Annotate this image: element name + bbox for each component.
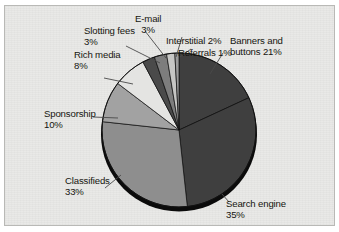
label-interstitial: Interstitial 2%	[166, 36, 221, 47]
label-interstitial-name: Interstitial	[166, 35, 205, 46]
label-banners-and-buttons: Banners and buttons 21%	[230, 36, 283, 57]
label-classifieds: Classifieds 33%	[65, 176, 110, 197]
label-referrals: Referrals 1%	[178, 48, 232, 59]
pie-slices	[102, 53, 256, 207]
label-search-engine-name: Search engine	[226, 199, 286, 210]
chart-panel: E-mail 3% Interstitial 2% Referrals 1% B…	[4, 5, 335, 226]
label-interstitial-value: 2%	[208, 35, 222, 46]
label-slotting-fees: Slotting fees 3%	[84, 26, 135, 47]
label-email-name: E-mail	[135, 14, 161, 25]
label-email-value: 3%	[135, 25, 161, 36]
label-search-engine: Search engine 35%	[226, 199, 286, 220]
label-sponsorship: Sponsorship 10%	[44, 109, 96, 130]
label-rich-media-value: 8%	[74, 61, 121, 72]
label-classifieds-value: 33%	[65, 187, 110, 198]
label-rich-media: Rich media 8%	[74, 50, 121, 71]
label-banners-line2: buttons 21%	[230, 47, 283, 58]
label-sponsorship-name: Sponsorship	[44, 109, 96, 120]
label-referrals-name: Referrals	[178, 47, 216, 58]
chart-figure: E-mail 3% Interstitial 2% Referrals 1% B…	[0, 0, 339, 232]
label-slotting-value: 3%	[84, 37, 135, 48]
label-banners-line1: Banners and	[230, 36, 283, 47]
label-sponsorship-value: 10%	[44, 120, 96, 131]
label-classifieds-name: Classifieds	[65, 176, 110, 187]
label-email: E-mail 3%	[135, 14, 161, 35]
leader-line-slotting	[126, 46, 160, 63]
label-slotting-name: Slotting fees	[84, 26, 135, 37]
slice-classifieds	[102, 122, 187, 207]
label-rich-media-name: Rich media	[74, 50, 121, 61]
label-search-engine-value: 35%	[226, 210, 286, 221]
